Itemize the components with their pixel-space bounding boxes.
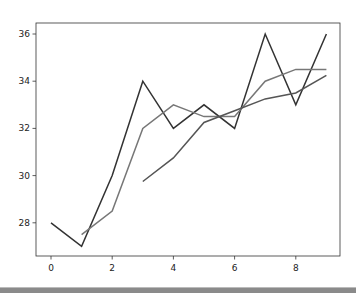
y-tick-label: 30 [19,171,31,181]
x-axis: 02468 [48,256,299,273]
window-bottom-bar [0,287,356,293]
plot-frame [36,23,340,256]
y-axis: 2830323436 [19,29,36,228]
x-tick-label: 6 [232,263,238,273]
y-tick-label: 32 [19,123,30,133]
y-tick-label: 34 [19,76,31,86]
y-tick-label: 28 [19,218,31,228]
x-tick-label: 8 [293,263,299,273]
x-tick-label: 4 [171,263,177,273]
x-tick-label: 2 [109,263,115,273]
data-lines [51,34,326,246]
y-tick-label: 36 [19,29,31,39]
x-tick-label: 0 [48,263,54,273]
